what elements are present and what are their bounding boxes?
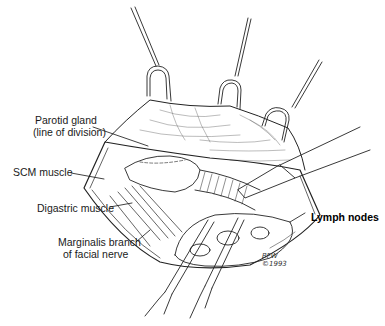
label-digastric-muscle: Digastric muscle (37, 202, 114, 214)
retractor-right (262, 60, 322, 142)
retractor-middle (218, 18, 251, 109)
artist-signature: BFW ©1993 (262, 252, 287, 268)
label-parotid-line2: (line of division) (33, 126, 106, 138)
label-marginalis-branch: Marginalis branch of facial nerve (58, 236, 141, 260)
leader-lines (71, 127, 305, 242)
forceps-lower (145, 218, 244, 318)
skin-flap (105, 100, 305, 170)
signature-initials: BFW (262, 252, 287, 260)
parotid-gland (125, 156, 200, 192)
label-scm-muscle: SCM muscle (13, 166, 73, 178)
muscle-striations (195, 170, 260, 210)
label-marginalis-line2: of facial nerve (58, 248, 141, 260)
label-parotid-line1: Parotid gland (33, 114, 106, 126)
label-lymph-nodes: Lymph nodes (311, 211, 379, 223)
surgical-illustration (0, 0, 385, 326)
retractor-left (131, 7, 171, 101)
label-parotid-gland: Parotid gland (line of division) (33, 114, 106, 138)
label-marginalis-line1: Marginalis branch (58, 236, 141, 248)
skin-texture (140, 105, 290, 161)
signature-year: ©1993 (262, 260, 287, 268)
